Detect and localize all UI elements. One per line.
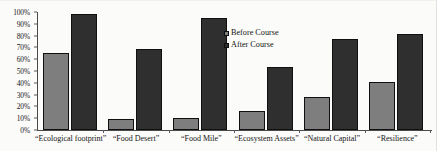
bar-group <box>103 12 168 130</box>
x-axis-category-label: “Ecosystem Assets” <box>235 134 299 143</box>
x-axis-category-label: “Food Mile” <box>181 134 222 143</box>
bar-group <box>38 12 103 130</box>
y-axis-tick-label: 60% <box>17 55 30 64</box>
y-axis-tick-label: 0% <box>20 126 30 135</box>
x-axis-tick-mark <box>365 130 366 133</box>
bar-chart: 100%90%80%70%60%50%40%30%20%10%0% “Ecolo… <box>0 0 437 151</box>
y-axis-tick-label: 80% <box>17 31 30 40</box>
bar-after-course <box>332 39 358 130</box>
bar-group <box>365 12 430 130</box>
y-axis-tick-label: 20% <box>17 102 30 111</box>
y-axis-tick-label: 90% <box>17 19 30 28</box>
x-axis-category-label: “Resilience” <box>377 134 417 143</box>
y-axis-tick-label: 10% <box>17 114 30 123</box>
bar-after-course <box>267 67 293 130</box>
legend-item: Before Course <box>224 28 279 39</box>
bar-group <box>299 12 364 130</box>
bar-before-course <box>369 82 395 130</box>
bar-before-course <box>108 119 134 130</box>
x-axis-tick-mark <box>234 130 235 133</box>
bar-before-course <box>43 53 69 130</box>
x-axis-tick-mark <box>103 130 104 133</box>
x-axis-category-label: “Natural Capital” <box>304 134 360 143</box>
chart-legend: Before CourseAfter Course <box>224 28 279 52</box>
x-axis-category-label: “Ecological footprint” <box>35 134 106 143</box>
legend-swatch-icon <box>224 31 229 36</box>
bar-before-course <box>304 97 330 130</box>
bar-before-course <box>239 111 265 130</box>
y-axis-tick-label: 70% <box>17 43 30 52</box>
bar-before-course <box>173 118 199 130</box>
x-axis-tick-mark <box>430 130 431 133</box>
x-axis-tick-mark <box>299 130 300 133</box>
y-axis-tick-label: 40% <box>17 78 30 87</box>
y-axis: 100%90%80%70%60%50%40%30%20%10%0% <box>0 12 34 130</box>
bar-after-course <box>71 14 97 130</box>
bar-after-course <box>397 34 423 130</box>
y-axis-tick-label: 100% <box>13 8 30 17</box>
y-axis-tick-label: 30% <box>17 90 30 99</box>
legend-swatch-icon <box>224 43 229 48</box>
legend-label: Before Course <box>231 29 279 37</box>
x-axis-category-label: “Food Desert” <box>113 134 159 143</box>
y-axis-tick-label: 50% <box>17 67 30 76</box>
legend-label: After Course <box>231 41 274 49</box>
legend-item: After Course <box>224 40 279 51</box>
bar-after-course <box>136 49 162 130</box>
x-axis-tick-mark <box>169 130 170 133</box>
